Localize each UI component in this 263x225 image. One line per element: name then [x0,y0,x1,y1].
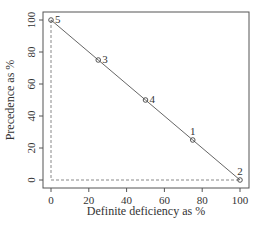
point-label: 2 [237,165,243,177]
point-label: 5 [55,13,61,25]
x-tick-label: 0 [48,194,54,206]
chart-container: 53412 020406080100 020406080100 Definite… [0,0,263,225]
x-axis-label: Definite deficiency as % [87,204,205,218]
y-tick-label: 20 [25,142,37,154]
point-label: 4 [150,93,156,105]
y-axis-ticks: 020406080100 [25,11,43,183]
point-label: 3 [102,53,108,65]
x-tick-label: 100 [232,194,249,206]
trend-line [51,20,240,180]
y-tick-label: 0 [25,177,37,183]
point-label: 1 [190,125,196,137]
y-tick-label: 100 [25,11,37,28]
data-point: 5 [49,13,61,25]
y-axis-label: Precedence as % [3,60,17,141]
y-tick-label: 80 [25,46,37,58]
data-line [51,20,240,180]
precedence-deficiency-chart: 53412 020406080100 020406080100 Definite… [0,0,263,225]
data-points: 53412 [49,13,243,182]
y-tick-label: 40 [25,110,37,122]
y-tick-label: 60 [25,78,37,90]
